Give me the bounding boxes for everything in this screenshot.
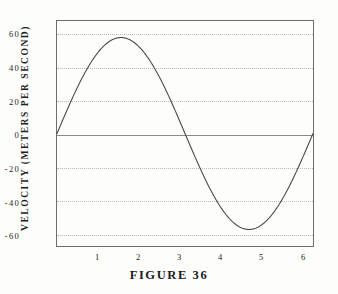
y-tick-label-neg60: -60 xyxy=(0,231,20,241)
y-tick-label-0: 0 xyxy=(0,130,20,140)
x-tick-label-2: 2 xyxy=(128,252,148,262)
y-tick-label-60: 60 xyxy=(0,29,20,39)
figure-caption: FIGURE 36 xyxy=(0,268,338,283)
x-tick-label-3: 3 xyxy=(169,252,189,262)
x-tick-label-4: 4 xyxy=(210,252,230,262)
x-tick-label-6: 6 xyxy=(293,252,313,262)
x-tick-label-1: 1 xyxy=(87,252,107,262)
velocity-sine-curve xyxy=(57,21,313,246)
y-axis-title: VELOCITY (METERS PER SECOND) xyxy=(20,9,30,247)
plot-area xyxy=(56,20,314,247)
x-tick-label-5: 5 xyxy=(251,252,271,262)
y-tick-label-20: 20 xyxy=(0,97,20,107)
y-tick-label-neg40: -40 xyxy=(0,198,20,208)
y-tick-label-neg20: -20 xyxy=(0,164,20,174)
y-tick-label-40: 40 xyxy=(0,63,20,73)
figure-container: VELOCITY (METERS PER SECOND) 60 40 20 0 … xyxy=(0,0,338,294)
